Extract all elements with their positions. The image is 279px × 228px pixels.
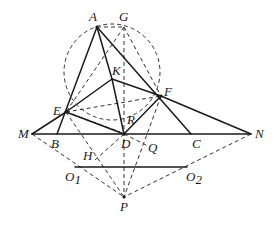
label-M: M (17, 126, 30, 141)
label-O2: O2 (186, 169, 202, 187)
label-F: F (163, 84, 173, 99)
label-B: B (51, 136, 59, 151)
label-D: D (120, 136, 131, 151)
geometry-diagram: A G K E F R M B D Q C N H O1 O2 P (0, 0, 279, 228)
label-E: E (52, 103, 61, 118)
solid-lines (32, 27, 251, 167)
label-G: G (119, 9, 129, 24)
label-K: K (111, 63, 122, 78)
label-P: P (119, 199, 128, 214)
label-A: A (88, 9, 97, 24)
label-C: C (192, 136, 201, 151)
label-N: N (254, 126, 265, 141)
label-Q: Q (148, 140, 158, 155)
label-O1: O1 (65, 169, 81, 187)
label-R: R (126, 112, 135, 127)
point-labels: A G K E F R M B D Q C N H O1 O2 P (17, 9, 265, 214)
label-H: H (82, 148, 93, 163)
